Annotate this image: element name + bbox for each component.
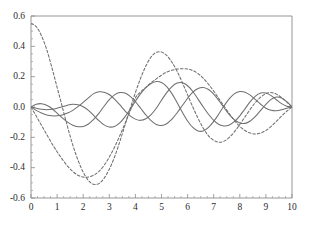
- y-tick-label: 0.0: [13, 102, 25, 112]
- x-tick-label: 6: [185, 202, 190, 212]
- y-tick-label: 0.4: [13, 41, 25, 51]
- y-tick-label: -0.4: [10, 162, 25, 172]
- x-tick-label: 0: [29, 202, 34, 212]
- y-tick-label: 0.6: [13, 11, 25, 21]
- x-tick-label: 9: [264, 202, 269, 212]
- x-tick-label: 1: [55, 202, 60, 212]
- x-tick-label: 2: [81, 202, 86, 212]
- y-tick-label: -0.2: [10, 132, 25, 142]
- x-tick-label: 7: [211, 202, 216, 212]
- y-tick-label: 0.2: [13, 71, 25, 81]
- x-tick-label: 8: [237, 202, 242, 212]
- x-tick-label: 3: [107, 202, 112, 212]
- y-tick-label: -0.6: [10, 193, 25, 203]
- x-tick-label: 5: [159, 202, 164, 212]
- chart-container: 0.60.40.20.0-0.2-0.4-0.6 012345678910: [0, 0, 313, 230]
- x-tick-label: 4: [133, 202, 138, 212]
- damped-oscillation-plot: 0.60.40.20.0-0.2-0.4-0.6 012345678910: [0, 0, 313, 230]
- x-tick-label: 10: [287, 202, 297, 212]
